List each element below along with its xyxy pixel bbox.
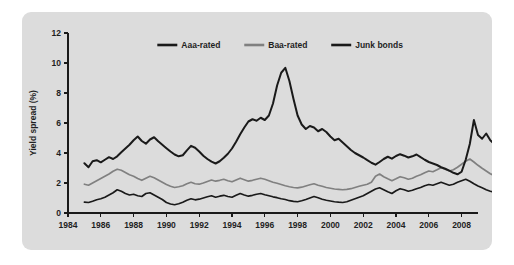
x-tick-label: 2006: [419, 220, 438, 230]
y-tick-label: 2: [56, 178, 61, 188]
legend-label-junk-bonds: Junk bonds: [355, 40, 403, 50]
x-tick-label: 1990: [157, 220, 176, 230]
chart-legend: Aaa-ratedBaa-ratedJunk bonds: [157, 40, 403, 50]
series-line-aaa-rated: [84, 179, 492, 205]
y-tick-label: 12: [52, 28, 62, 38]
y-tick-label: 8: [56, 88, 61, 98]
series-line-junk-bonds: [84, 68, 492, 175]
x-tick-label: 2004: [387, 220, 406, 230]
x-tick-label: 2002: [354, 220, 373, 230]
chart-panel: 024681012 198419861988199019921994199619…: [22, 12, 492, 250]
yield-spread-line-chart: 024681012 198419861988199019921994199619…: [22, 12, 492, 250]
x-tick-label: 1988: [124, 220, 143, 230]
y-axis-label-text: Yield spread (%): [28, 90, 38, 156]
legend-label-baa-rated: Baa-rated: [268, 40, 307, 50]
x-tick-label: 2000: [321, 220, 340, 230]
x-tick-label: 2008: [452, 220, 471, 230]
y-axis: 024681012: [52, 28, 68, 218]
y-tick-label: 0: [56, 208, 61, 218]
x-tick-label: 1998: [288, 220, 307, 230]
x-tick-label: 1992: [190, 220, 209, 230]
figure-root: 024681012 198419861988199019921994199619…: [0, 0, 514, 265]
x-tick-label: 1986: [91, 220, 110, 230]
y-tick-label: 6: [56, 118, 61, 128]
y-axis-title: Yield spread (%): [28, 90, 38, 156]
x-axis: 1984198619881990199219941996199820002002…: [59, 213, 478, 230]
x-tick-label: 1996: [255, 220, 274, 230]
x-tick-label: 1984: [59, 220, 78, 230]
data-series-group: [84, 68, 492, 205]
y-tick-label: 10: [52, 58, 62, 68]
y-tick-label: 4: [56, 148, 61, 158]
x-tick-label: 1994: [223, 220, 242, 230]
legend-label-aaa-rated: Aaa-rated: [181, 40, 220, 50]
